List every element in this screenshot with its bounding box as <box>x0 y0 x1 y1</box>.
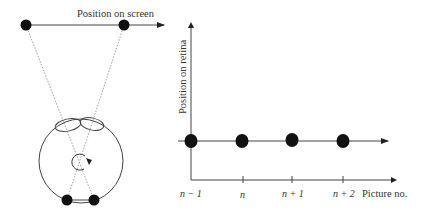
tick-label-n-plus-1: n + 1 <box>282 188 304 199</box>
rotation-arrowhead-icon <box>86 158 92 165</box>
retina-point-n-minus-1 <box>185 134 198 148</box>
eyeball <box>39 119 123 203</box>
x-axis-label: Picture no. <box>362 188 408 199</box>
lens-left <box>54 116 82 133</box>
retina-point-n-plus-2 <box>337 134 350 148</box>
screen-object-dot-1 <box>21 20 32 31</box>
retina-point-n-plus-1 <box>286 133 299 147</box>
sight-line-right <box>67 25 124 200</box>
sight-line-left <box>26 25 94 200</box>
retina-dot-2 <box>89 195 100 206</box>
tick-label-n-plus-2: n + 2 <box>333 188 355 199</box>
screen-axis-label: Position on screen <box>77 8 155 19</box>
y-axis-label: Position on retina <box>177 40 188 114</box>
retina-dot-1 <box>62 195 73 206</box>
right-panel: Position on retina n − 1 n n + 1 n + 2 P… <box>177 25 408 200</box>
left-panel: Position on screen <box>21 8 165 206</box>
screen-object-dot-2 <box>119 20 130 31</box>
rotation-arrow-icon <box>72 154 85 170</box>
eye-tracking-diagram: Position on screen Position on retina n … <box>0 0 424 215</box>
retina-point-n <box>236 134 249 148</box>
tick-label-n: n <box>240 189 245 200</box>
tick-label-n-minus-1: n − 1 <box>180 188 202 199</box>
